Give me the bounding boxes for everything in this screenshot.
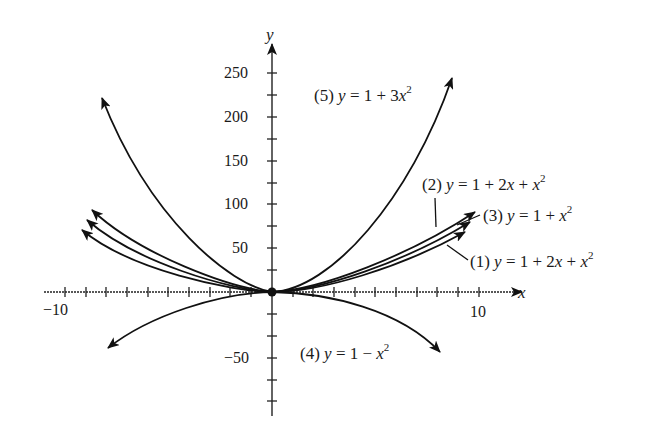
y-tick-150: 150 (224, 153, 248, 169)
label-curve-2: (2) y = 1 + 2x + x2 (422, 176, 546, 193)
label-curve-1: (1) y = 1 + 2x + x2 (470, 253, 594, 270)
origin-point (268, 288, 277, 297)
label-curve-3: (3) y = 1 + x2 (483, 207, 572, 224)
y-tick-neg50: −50 (224, 350, 249, 366)
label-curve-5: (5) y = 1 + 3x2 (314, 87, 412, 104)
y-tick-100: 100 (224, 196, 248, 212)
curve-4-right (272, 292, 440, 352)
x-tick-10: 10 (470, 304, 486, 320)
y-axis (267, 44, 277, 416)
y-tick-250: 250 (224, 65, 248, 81)
leader-1 (447, 245, 468, 260)
leader-2 (435, 198, 436, 227)
y-axis-label: y (266, 26, 274, 43)
x-tick-neg10: −10 (43, 302, 68, 318)
y-tick-50: 50 (232, 240, 248, 256)
x-axis-label: x (518, 284, 526, 301)
y-tick-200: 200 (224, 109, 248, 125)
label-curve-4: (4) y = 1 − x2 (300, 345, 389, 362)
curve-4 (108, 292, 272, 348)
